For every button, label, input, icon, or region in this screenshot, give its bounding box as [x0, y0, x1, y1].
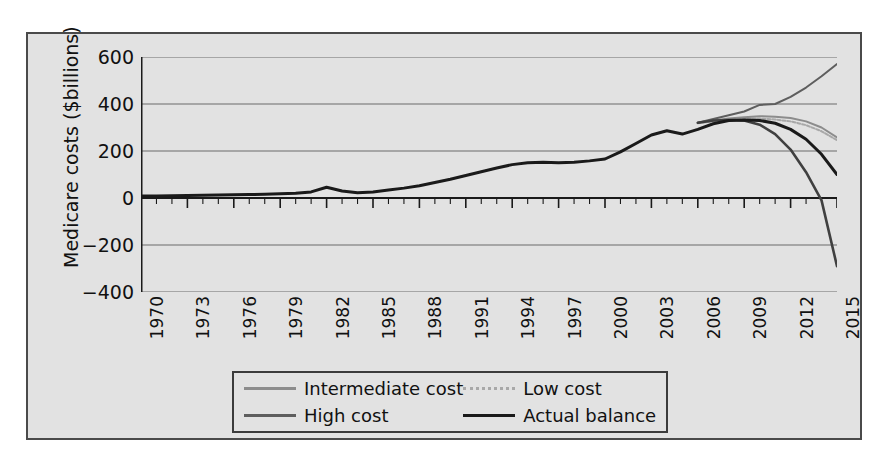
y-tick-label: −200	[82, 234, 134, 256]
legend-swatch-line-icon	[463, 387, 515, 390]
x-tick-label: 1988	[425, 296, 445, 339]
figure-root: Medicare costs ($billions) 6004002000−20…	[0, 0, 884, 467]
series-line-high-cost	[698, 64, 837, 123]
x-tick-label: 1976	[240, 296, 260, 339]
x-tick-label: 1985	[379, 296, 399, 339]
y-tick-label: 200	[98, 140, 134, 162]
legend-swatch-line-icon	[244, 414, 296, 417]
chart-legend: Intermediate costLow costHigh costActual…	[232, 371, 668, 433]
legend-item: Low cost	[463, 380, 660, 398]
x-tick-label: 1991	[472, 296, 492, 339]
line-chart-svg	[141, 57, 837, 292]
x-tick-label: 1982	[333, 296, 353, 339]
x-tick-label: 1970	[147, 296, 167, 339]
legend-swatch-line-icon	[244, 387, 296, 390]
legend-label: Actual balance	[523, 407, 656, 425]
plot-area	[141, 57, 837, 292]
y-tick-label: 600	[98, 46, 134, 68]
x-tick-label: 1979	[286, 296, 306, 339]
legend-label: Low cost	[523, 380, 602, 398]
x-tick-label: 2012	[797, 296, 817, 339]
y-tick-label: 400	[98, 93, 134, 115]
series-line-actual-balance	[141, 120, 837, 196]
x-tick-label: 1997	[565, 296, 585, 339]
series-line-actual-balance-projection	[698, 120, 837, 266]
legend-item: Actual balance	[463, 407, 660, 425]
x-tick-label: 1994	[518, 296, 538, 339]
legend-item: High cost	[244, 407, 463, 425]
y-tick-label: −400	[82, 281, 134, 303]
x-tick-label: 2006	[704, 296, 724, 339]
legend-item: Intermediate cost	[244, 380, 463, 398]
y-axis-tick-labels: 6004002000−200−400	[38, 57, 134, 292]
legend-label: High cost	[304, 407, 388, 425]
figure-panel: Medicare costs ($billions) 6004002000−20…	[26, 32, 862, 440]
x-tick-label: 1973	[193, 296, 213, 339]
x-tick-label: 2009	[750, 296, 770, 339]
legend-swatch-line-icon	[463, 414, 515, 417]
legend-label: Intermediate cost	[304, 380, 463, 398]
x-tick-label: 2003	[657, 296, 677, 339]
x-tick-label: 2015	[843, 296, 863, 339]
x-axis-tick-labels: 1970197319761979198219851988199119941997…	[141, 296, 837, 370]
x-tick-label: 2000	[611, 296, 631, 339]
y-tick-label: 0	[122, 187, 134, 209]
